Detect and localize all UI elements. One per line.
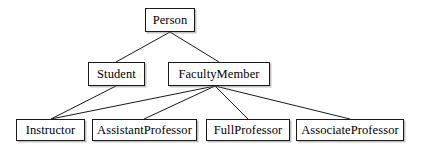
inheritance-edge-facultymember-to-associateprofessor bbox=[215, 86, 350, 119]
inheritance-edge-facultymember-to-instructor bbox=[51, 86, 215, 119]
class-box-fullprofessor[interactable]: FullProfessor bbox=[206, 119, 290, 141]
inheritance-edge-student-to-instructor bbox=[51, 86, 116, 119]
class-label-facultymember: FacultyMember bbox=[178, 68, 259, 81]
inheritance-edge-facultymember-to-assistantprofessor bbox=[144, 86, 215, 119]
class-box-person[interactable]: Person bbox=[145, 8, 195, 32]
inheritance-edge-facultymember-to-fullprofessor bbox=[215, 86, 248, 119]
inheritance-edge-person-to-student bbox=[116, 32, 170, 62]
class-label-student: Student bbox=[97, 68, 136, 81]
inheritance-edge-person-to-facultymember bbox=[170, 32, 219, 62]
class-label-associateprofessor: AssociateProfessor bbox=[301, 124, 399, 137]
class-box-instructor[interactable]: Instructor bbox=[16, 119, 85, 141]
class-box-assistantprofessor[interactable]: AssistantProfessor bbox=[92, 119, 197, 141]
class-label-fullprofessor: FullProfessor bbox=[214, 124, 283, 137]
class-hierarchy-diagram: Person Student FacultyMember Instructor … bbox=[0, 0, 421, 147]
class-label-assistantprofessor: AssistantProfessor bbox=[97, 124, 192, 137]
class-label-person: Person bbox=[153, 14, 188, 27]
class-box-associateprofessor[interactable]: AssociateProfessor bbox=[296, 119, 404, 141]
class-label-instructor: Instructor bbox=[26, 124, 76, 137]
class-box-facultymember[interactable]: FacultyMember bbox=[168, 62, 270, 86]
class-box-student[interactable]: Student bbox=[88, 62, 145, 86]
